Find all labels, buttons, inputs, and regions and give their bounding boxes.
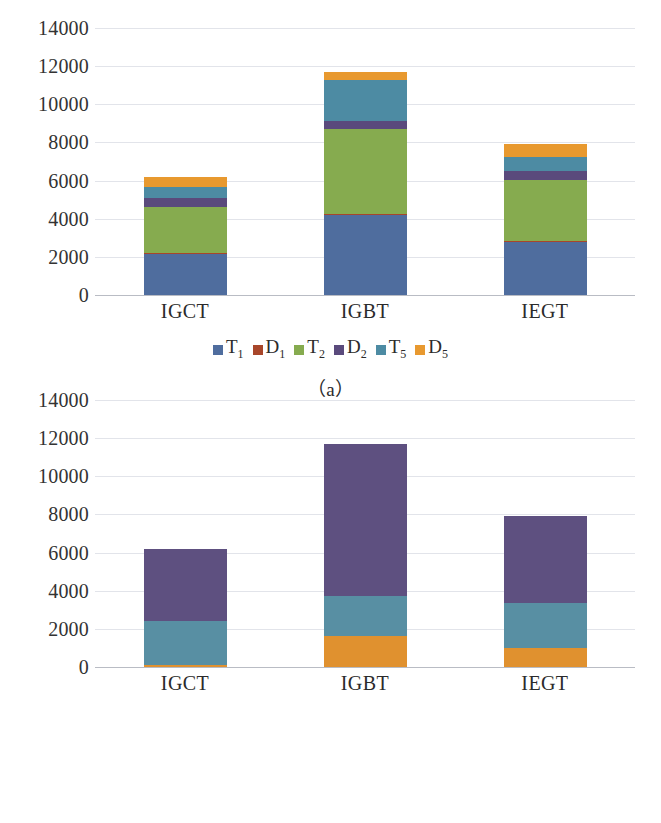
bar-segment-guanduan[interactable] xyxy=(324,596,407,635)
legend-swatch-icon xyxy=(334,345,344,355)
y-axis-tick-label: 12000 xyxy=(0,428,89,448)
y-axis-tick-label: 2000 xyxy=(0,619,89,639)
legend-a: T1D1T2D2T5D5 xyxy=(0,336,661,362)
legend-swatch-icon xyxy=(253,345,263,355)
bar-group xyxy=(455,28,635,295)
y-axis-tick-label: 6000 xyxy=(0,543,89,563)
y-axis-tick-label: 14000 xyxy=(0,390,89,410)
bar-segment-t1[interactable] xyxy=(324,215,407,295)
bar-segment-t2[interactable] xyxy=(504,180,587,241)
y-axis-tick-label: 0 xyxy=(0,285,89,305)
bar-segment-t2[interactable] xyxy=(144,207,227,253)
bar-segment-d2[interactable] xyxy=(144,198,227,208)
bar-segment-daotong[interactable] xyxy=(144,549,227,621)
legend-item-t2[interactable]: T2 xyxy=(294,336,325,362)
bar-segment-daotong[interactable] xyxy=(324,444,407,596)
legend-swatch-icon xyxy=(213,345,223,355)
legend-swatch-icon xyxy=(294,345,304,355)
y-axis-tick-label: 4000 xyxy=(0,581,89,601)
y-axis-tick-label: 0 xyxy=(0,657,89,677)
legend-label: D5 xyxy=(428,336,448,362)
x-axis-labels-b: IGCTIGBTIEGT xyxy=(95,672,635,695)
axis-line-zero xyxy=(95,295,635,296)
y-axis-tick-label: 8000 xyxy=(0,504,89,524)
bar-segment-d2[interactable] xyxy=(504,171,587,181)
legend-item-t1[interactable]: T1 xyxy=(213,336,244,362)
bar-group xyxy=(95,400,275,667)
plot-area-a xyxy=(95,28,635,295)
legend-label: T2 xyxy=(307,336,325,362)
stacked-bar-igbt[interactable] xyxy=(324,444,407,667)
stacked-bar-iegt[interactable] xyxy=(504,516,587,667)
y-axis-tick-label: 6000 xyxy=(0,171,89,191)
bar-segment-kaitong[interactable] xyxy=(504,648,587,667)
bar-group xyxy=(95,28,275,295)
chart-panel-b: 02000400060008000100001200014000 IGCTIGB… xyxy=(0,372,661,744)
bar-segment-t2[interactable] xyxy=(324,129,407,214)
x-axis-label-igct: IGCT xyxy=(95,672,275,695)
stacked-bar-iegt[interactable] xyxy=(504,144,587,295)
y-axis-tick-label: 8000 xyxy=(0,132,89,152)
y-axis-tick-label: 14000 xyxy=(0,18,89,38)
plot-area-b xyxy=(95,400,635,667)
legend-label: D1 xyxy=(266,336,286,362)
bars-a xyxy=(95,28,635,295)
stacked-bar-igct[interactable] xyxy=(144,177,227,295)
legend-item-d2[interactable]: D2 xyxy=(334,336,367,362)
stacked-bar-igct[interactable] xyxy=(144,549,227,667)
bar-segment-d5[interactable] xyxy=(504,144,587,157)
bar-segment-d2[interactable] xyxy=(324,121,407,130)
bar-group xyxy=(275,400,455,667)
legend-label: T5 xyxy=(389,336,407,362)
bars-b xyxy=(95,400,635,667)
y-axis-tick-label: 10000 xyxy=(0,466,89,486)
bar-segment-t5[interactable] xyxy=(144,187,227,197)
bar-group xyxy=(275,28,455,295)
y-axis-tick-label: 2000 xyxy=(0,247,89,267)
legend-label: T1 xyxy=(226,336,244,362)
chart-panel-a: 02000400060008000100001200014000 IGCTIGB… xyxy=(0,0,661,372)
legend-item-d5[interactable]: D5 xyxy=(415,336,448,362)
x-axis-label-igbt: IGBT xyxy=(275,672,455,695)
figure: 02000400060008000100001200014000 IGCTIGB… xyxy=(0,0,661,744)
bar-segment-t1[interactable] xyxy=(144,254,227,295)
bar-segment-kaitong[interactable] xyxy=(144,665,227,667)
legend-swatch-icon xyxy=(376,345,386,355)
x-axis-label-iegt: IEGT xyxy=(455,300,635,323)
bar-segment-daotong[interactable] xyxy=(504,516,587,603)
bar-segment-guanduan[interactable] xyxy=(504,603,587,648)
x-axis-label-iegt: IEGT xyxy=(455,672,635,695)
legend-item-t5[interactable]: T5 xyxy=(376,336,407,362)
bar-segment-kaitong[interactable] xyxy=(324,636,407,667)
bar-segment-guanduan[interactable] xyxy=(144,621,227,665)
x-axis-label-igbt: IGBT xyxy=(275,300,455,323)
stacked-bar-igbt[interactable] xyxy=(324,72,407,295)
bar-segment-t5[interactable] xyxy=(504,157,587,170)
bar-segment-t1[interactable] xyxy=(504,242,587,295)
bar-segment-d5[interactable] xyxy=(144,177,227,187)
legend-swatch-icon xyxy=(415,345,425,355)
y-axis-tick-label: 4000 xyxy=(0,209,89,229)
axis-line-zero xyxy=(95,667,635,668)
bar-segment-t5[interactable] xyxy=(324,80,407,120)
bar-group xyxy=(455,400,635,667)
y-axis-tick-label: 10000 xyxy=(0,94,89,114)
legend-item-d1[interactable]: D1 xyxy=(253,336,286,362)
bar-segment-d5[interactable] xyxy=(324,72,407,80)
legend-label: D2 xyxy=(347,336,367,362)
x-axis-labels-a: IGCTIGBTIEGT xyxy=(95,300,635,323)
y-axis-tick-label: 12000 xyxy=(0,56,89,76)
x-axis-label-igct: IGCT xyxy=(95,300,275,323)
